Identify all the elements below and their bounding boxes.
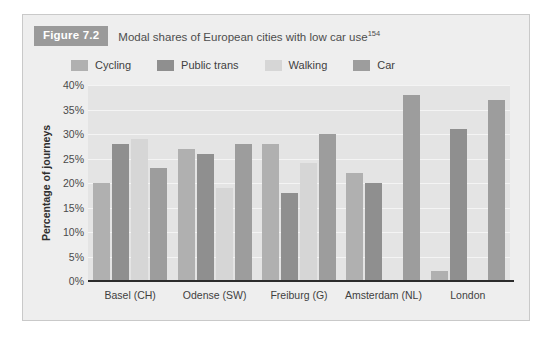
bar-freiburg-g-cycling bbox=[262, 144, 279, 281]
y-axis-tick-label: 35% bbox=[63, 104, 84, 116]
x-axis-tick-label: Amsterdam (NL) bbox=[345, 289, 422, 301]
x-axis-line bbox=[88, 280, 514, 282]
bar-odense-sw-cycling bbox=[178, 149, 195, 281]
y-axis-title: Percentage of journeys bbox=[38, 85, 54, 281]
bar-odense-sw-public-trans bbox=[197, 154, 214, 281]
bar-odense-sw-car bbox=[235, 144, 252, 281]
y-axis-tick-label: 15% bbox=[63, 202, 84, 214]
y-axis-tick-label: 25% bbox=[63, 153, 84, 165]
bar-freiburg-g-walking bbox=[300, 163, 317, 281]
bar-freiburg-g-car bbox=[319, 134, 336, 281]
bar-amsterdam-nl-public-trans bbox=[365, 183, 382, 281]
legend-item-cycling[interactable]: Cycling bbox=[71, 59, 131, 71]
figure-card: Figure 7.2 Modal shares of European citi… bbox=[22, 14, 530, 321]
x-axis-tick-labels: Basel (CH)Odense (SW)Freiburg (G)Amsterd… bbox=[88, 285, 510, 305]
bar-freiburg-g-public-trans bbox=[281, 193, 298, 281]
y-axis-tick-labels: 0%5%10%15%20%25%30%35%40% bbox=[54, 85, 88, 281]
legend-swatch-icon bbox=[71, 60, 88, 71]
legend-swatch-icon bbox=[157, 60, 174, 71]
legend-label: Public trans bbox=[181, 59, 238, 71]
legend-item-public-trans[interactable]: Public trans bbox=[157, 59, 238, 71]
y-axis-tick-label: 5% bbox=[69, 251, 84, 263]
y-axis-title-text: Percentage of journeys bbox=[40, 125, 52, 241]
y-axis-tick-label: 0% bbox=[69, 275, 84, 287]
bar-london-public-trans bbox=[450, 129, 467, 281]
x-axis-tick-label: Odense (SW) bbox=[183, 289, 247, 301]
x-axis-tick-label: Freiburg (G) bbox=[270, 289, 327, 301]
chart-legend: CyclingPublic transWalkingCar bbox=[71, 59, 421, 71]
bar-basel-ch-car bbox=[150, 168, 167, 281]
legend-label: Walking bbox=[289, 59, 328, 71]
legend-label: Cycling bbox=[95, 59, 131, 71]
bar-amsterdam-nl-car bbox=[403, 95, 420, 281]
bar-groups bbox=[88, 85, 510, 281]
legend-swatch-icon bbox=[265, 60, 282, 71]
plot-area bbox=[88, 85, 510, 281]
figure-caption-text: Modal shares of European cities with low… bbox=[118, 31, 367, 43]
y-axis-tick-label: 40% bbox=[63, 79, 84, 91]
figure-caption: Modal shares of European cities with low… bbox=[118, 29, 380, 43]
bar-odense-sw-walking bbox=[216, 188, 233, 281]
bar-basel-ch-cycling bbox=[93, 183, 110, 281]
y-axis-tick-label: 20% bbox=[63, 177, 84, 189]
legend-item-walking[interactable]: Walking bbox=[265, 59, 328, 71]
bar-amsterdam-nl-cycling bbox=[346, 173, 363, 281]
bar-london-car bbox=[488, 100, 505, 281]
legend-item-car[interactable]: Car bbox=[353, 59, 395, 71]
bar-basel-ch-walking bbox=[131, 139, 148, 281]
y-axis-tick-label: 10% bbox=[63, 226, 84, 238]
y-axis-tick-label: 30% bbox=[63, 128, 84, 140]
x-axis-tick-label: London bbox=[450, 289, 485, 301]
plot-wrapper: Percentage of journeys 0%5%10%15%20%25%3… bbox=[38, 85, 516, 307]
figure-container: Figure 7.2 Modal shares of European citi… bbox=[0, 0, 552, 340]
legend-label: Car bbox=[377, 59, 395, 71]
figure-caption-row: Figure 7.2 Modal shares of European citi… bbox=[34, 26, 380, 46]
x-axis-tick-label: Basel (CH) bbox=[105, 289, 156, 301]
figure-number-badge: Figure 7.2 bbox=[34, 26, 108, 46]
figure-caption-footnote: 154 bbox=[368, 29, 381, 38]
bar-basel-ch-public-trans bbox=[112, 144, 129, 281]
legend-swatch-icon bbox=[353, 60, 370, 71]
